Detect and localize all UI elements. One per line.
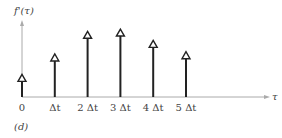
tick-labels-group: 0Δt2 Δt3 Δt4 Δt5 Δt: [19, 102, 197, 113]
x-tick-label: 3 Δt: [110, 102, 131, 113]
impulse-arrowhead-icon: [149, 40, 157, 47]
x-tick-label: 0: [19, 102, 25, 113]
x-axis-label: τ: [272, 91, 278, 102]
impulse-arrowhead-icon: [18, 74, 26, 81]
y-axis-label: f'(τ): [13, 5, 34, 16]
x-tick-label: Δt: [49, 102, 60, 113]
x-tick-label: 2 Δt: [77, 102, 98, 113]
x-axis-arrow-icon: [264, 95, 270, 99]
impulse-arrowhead-icon: [182, 52, 190, 59]
impulse-arrowhead-icon: [84, 31, 92, 38]
impulse-arrowhead-icon: [51, 54, 59, 61]
y-axis-arrow-icon: [20, 20, 24, 26]
impulse-arrowhead-icon: [116, 29, 124, 36]
x-tick-label: 4 Δt: [143, 102, 164, 113]
impulse-stem-chart: 0Δt2 Δt3 Δt4 Δt5 Δt f'(τ) τ (d): [0, 0, 282, 138]
x-tick-label: 5 Δt: [176, 102, 197, 113]
stems-group: [18, 29, 190, 97]
panel-label: (d): [14, 121, 28, 132]
